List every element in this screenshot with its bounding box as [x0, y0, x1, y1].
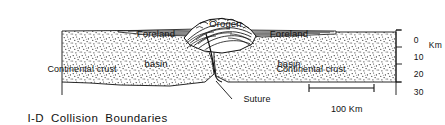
suture-leader-line	[216, 81, 232, 99]
depth-axis-unit: Km	[419, 30, 442, 60]
label-foreland-basin-left: Foreland basin	[121, 9, 191, 89]
label-continental-crust-right: Continental crust	[266, 54, 346, 84]
label-continental-crust-left-text: Continental crust	[47, 64, 116, 74]
scale-bar-label-text: 100 Km	[331, 104, 363, 114]
label-orogen: Orogen	[189, 9, 251, 39]
label-continental-crust-right-text: Continental crust	[276, 64, 345, 74]
label-orogen-text: Orogen	[209, 18, 241, 29]
label-suture: Suture	[233, 84, 271, 114]
label-continental-crust-left: Continental crust	[37, 54, 117, 84]
figure-caption: I-D Collision Boundaries	[13, 103, 168, 125]
label-foreland-basin-right-line1: Foreland	[254, 29, 324, 39]
depth-tick-label-30: 30	[404, 77, 424, 107]
scale-bar-label: 100 Km	[309, 94, 374, 124]
label-suture-text: Suture	[243, 94, 270, 104]
depth-tick-30-text: 30	[414, 87, 424, 97]
label-foreland-basin-left-line1: Foreland	[121, 29, 191, 39]
figure-caption-text: I-D Collision Boundaries	[27, 112, 167, 124]
depth-axis-unit-text: Km	[429, 40, 442, 50]
label-foreland-basin-left-line2: basin	[121, 59, 191, 69]
depth-axis	[396, 30, 402, 95]
collision-boundaries-figure: Foreland basin Orogen Foreland basin Con…	[0, 0, 445, 125]
